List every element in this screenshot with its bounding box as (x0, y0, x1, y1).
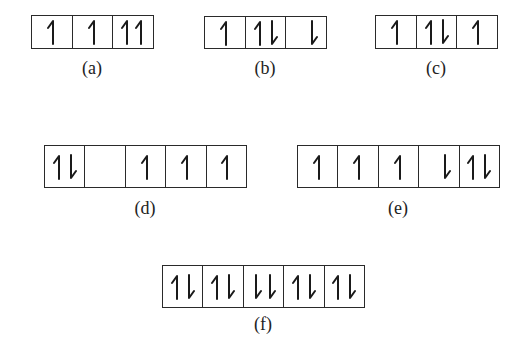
diagram-label-a: (a) (62, 58, 122, 79)
electron-arrows (457, 16, 497, 48)
spin-up-arrow-icon (313, 154, 323, 180)
orbital-cell (32, 16, 73, 48)
diagram-label-d: (d) (115, 198, 175, 219)
electron-arrows (163, 266, 202, 307)
electron-arrows (205, 17, 245, 48)
spin-up-arrow-icon (394, 154, 404, 180)
orbital-cell (73, 16, 114, 48)
orbital-boxes (297, 145, 500, 188)
electron-arrows (244, 266, 283, 307)
spin-up-arrow-icon (171, 274, 181, 300)
orbital-cell (207, 146, 246, 187)
spin-down-arrow-icon (266, 274, 276, 300)
spin-up-arrow-icon (141, 154, 151, 180)
diagram-label-f: (f) (233, 314, 293, 335)
orbital-cell (338, 146, 378, 187)
orbital-cell (417, 16, 458, 48)
orbital-boxes (44, 145, 247, 188)
spin-up-arrow-icon (88, 19, 98, 45)
orbital-box-diagram-e (297, 145, 500, 188)
orbital-cell (45, 146, 85, 187)
electron-arrows (417, 16, 457, 48)
electron-arrows (325, 266, 364, 307)
orbital-boxes (162, 265, 365, 308)
spin-down-arrow-icon (268, 20, 278, 46)
electron-arrows (113, 16, 153, 48)
orbital-cell (376, 16, 417, 48)
spin-up-arrow-icon (121, 19, 131, 45)
orbital-cell (419, 146, 459, 187)
electron-arrows (45, 146, 84, 187)
spin-up-arrow-icon (425, 19, 435, 45)
spin-down-arrow-icon (306, 274, 316, 300)
orbital-boxes (375, 15, 498, 49)
orbital-cell (244, 266, 284, 307)
spin-down-arrow-icon (252, 274, 262, 300)
orbital-cell (163, 266, 203, 307)
spin-down-arrow-icon (346, 274, 356, 300)
orbital-cell (85, 146, 125, 187)
spin-up-arrow-icon (181, 154, 191, 180)
spin-up-arrow-icon (220, 20, 230, 46)
electron-arrows (286, 17, 326, 48)
orbital-cell (379, 146, 419, 187)
electron-arrows (298, 146, 337, 187)
spin-down-arrow-icon (439, 19, 449, 45)
electron-arrows (284, 266, 323, 307)
orbital-cell (284, 266, 324, 307)
diagram-label-e: (e) (368, 198, 428, 219)
orbital-cell (246, 17, 287, 48)
spin-up-arrow-icon (292, 274, 302, 300)
orbital-cell (166, 146, 206, 187)
electron-arrows (166, 146, 205, 187)
electron-arrows (338, 146, 377, 187)
orbital-cell (325, 266, 364, 307)
spin-up-arrow-icon (254, 20, 264, 46)
orbital-cell (286, 17, 326, 48)
spin-up-arrow-icon (135, 19, 145, 45)
spin-down-arrow-icon (185, 274, 195, 300)
electron-arrows (203, 266, 242, 307)
spin-up-arrow-icon (467, 154, 477, 180)
spin-up-arrow-icon (221, 154, 231, 180)
orbital-box-diagram-a (31, 15, 154, 49)
electron-arrows (376, 16, 416, 48)
electron-arrows (126, 146, 165, 187)
spin-down-arrow-icon (67, 154, 77, 180)
orbital-cell (203, 266, 243, 307)
electron-arrows (379, 146, 418, 187)
electron-arrows (32, 16, 72, 48)
electron-arrows (419, 146, 458, 187)
orbital-box-diagram-d (44, 145, 247, 188)
orbital-cell (298, 146, 338, 187)
spin-up-arrow-icon (332, 274, 342, 300)
spin-up-arrow-icon (211, 274, 221, 300)
electron-arrows (73, 16, 113, 48)
orbital-cell (460, 146, 499, 187)
electron-arrows (207, 146, 246, 187)
spin-down-arrow-icon (481, 154, 491, 180)
orbital-cell (126, 146, 166, 187)
orbital-boxes (204, 16, 327, 49)
electron-arrows (246, 17, 286, 48)
orbital-boxes (31, 15, 154, 49)
spin-down-arrow-icon (225, 274, 235, 300)
spin-up-arrow-icon (53, 154, 63, 180)
diagram-label-c: (c) (406, 58, 466, 79)
spin-up-arrow-icon (47, 19, 57, 45)
electron-arrows (85, 146, 124, 187)
orbital-cell (457, 16, 497, 48)
orbital-box-diagram-c (375, 15, 498, 49)
spin-up-arrow-icon (391, 19, 401, 45)
orbital-cell (205, 17, 246, 48)
spin-up-arrow-icon (472, 19, 482, 45)
diagram-label-b: (b) (235, 58, 295, 79)
spin-down-arrow-icon (441, 154, 451, 180)
orbital-cell (113, 16, 153, 48)
electron-arrows (460, 146, 499, 187)
orbital-box-diagram-b (204, 16, 327, 49)
spin-down-arrow-icon (308, 20, 318, 46)
spin-up-arrow-icon (353, 154, 363, 180)
orbital-box-diagram-f (162, 265, 365, 308)
